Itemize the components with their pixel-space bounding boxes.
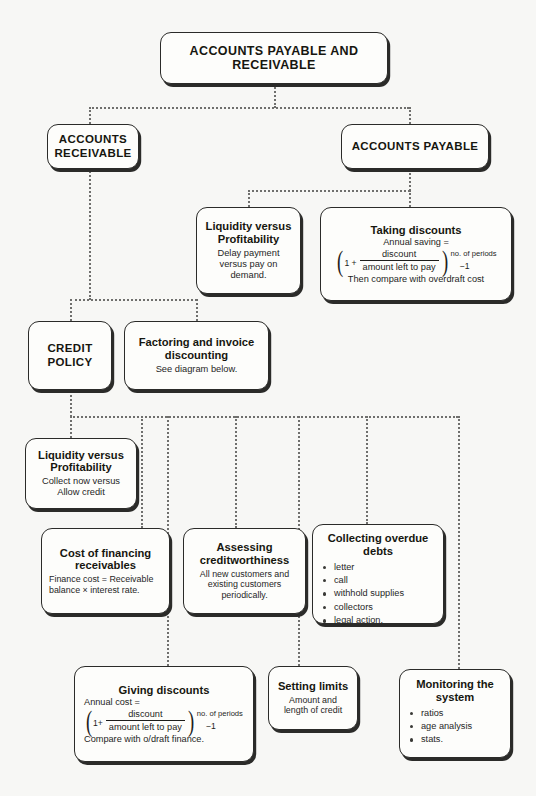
connector-main-bus [70, 416, 458, 418]
node-liquidity-receivable-body: Collect now versus Allow credit [33, 476, 129, 498]
node-taking-discounts[interactable]: Taking discounts Annual saving = ( 1 + d… [320, 207, 512, 301]
node-cost-of-financing-title: Cost of financing receivables [49, 547, 162, 573]
formula-exponent: no. of periods [451, 249, 497, 258]
formula-fraction: discount amount left to pay [360, 249, 439, 272]
connector-bus-level3 [70, 299, 197, 301]
node-assessing-creditworthiness-title: Assessing creditworthiness [191, 541, 298, 567]
node-root-title: ACCOUNTS PAYABLE AND RECEIVABLE [168, 44, 380, 73]
node-root[interactable]: ACCOUNTS PAYABLE AND RECEIVABLE [160, 32, 388, 84]
connector-drop-credit-policy [70, 299, 72, 321]
connector-drop-collecting [366, 416, 368, 524]
formula-open-paren: ( [86, 709, 92, 732]
node-setting-limits[interactable]: Setting limits Amount and length of cred… [268, 666, 358, 730]
node-factoring[interactable]: Factoring and invoice discounting See di… [124, 321, 269, 390]
connector-bus-payable [248, 190, 410, 192]
list-item: withhold supplies [320, 587, 404, 600]
formula-minus-one: −1 [460, 261, 470, 271]
node-taking-discounts-title: Taking discounts [370, 224, 461, 237]
node-monitoring-the-system[interactable]: Monitoring the system ratios age analysi… [399, 669, 511, 758]
formula-denominator: amount left to pay [106, 720, 185, 732]
node-assessing-creditworthiness[interactable]: Assessing creditworthiness All new custo… [183, 528, 306, 614]
connector-drop-receivable [89, 107, 91, 124]
node-liquidity-payable-title: Liquidity versus Profitability [204, 220, 293, 246]
node-factoring-title: Factoring and invoice discounting [132, 336, 261, 362]
connector-drop-taking-discounts [409, 190, 411, 207]
node-credit-policy-title: CREDIT POLICY [36, 342, 104, 368]
node-accounts-receivable[interactable]: ACCOUNTS RECEIVABLE [47, 124, 139, 169]
node-setting-limits-title: Setting limits [278, 680, 348, 693]
formula-fraction: discount amount left to pay [106, 709, 185, 732]
node-assessing-creditworthiness-body: All new customers and existing customers… [191, 569, 298, 601]
diagram-canvas: ACCOUNTS PAYABLE AND RECEIVABLE ACCOUNTS… [0, 0, 536, 796]
node-giving-discounts[interactable]: Giving discounts Annual cost = ( 1+ disc… [74, 666, 254, 762]
connector-drop-assessing [235, 416, 237, 528]
node-setting-limits-body: Amount and length of credit [276, 695, 350, 716]
list-item: letter [320, 561, 404, 574]
connector-drop-factoring [196, 299, 198, 321]
node-collecting-overdue-debts-bullets: letter call withhold supplies collectors… [320, 561, 404, 628]
list-item: ratios [407, 707, 472, 720]
formula-exponent-group: no. of periods −1 [197, 709, 243, 731]
list-item: collectors [320, 601, 404, 614]
node-cost-of-financing[interactable]: Cost of financing receivables Finance co… [41, 528, 170, 614]
node-giving-discounts-title: Giving discounts [84, 684, 244, 697]
node-monitoring-the-system-title: Monitoring the system [407, 678, 503, 704]
formula-exponent-group: no. of periods −1 [451, 249, 497, 271]
formula-numerator: discount [125, 709, 165, 720]
connector-drop-payable [409, 107, 411, 124]
node-giving-discounts-formula: ( 1+ discount amount left to pay ) no. o… [84, 709, 244, 732]
connector-root-stem [274, 84, 276, 108]
formula-lead: 1 + [344, 258, 356, 268]
connector-bus-level2 [89, 107, 409, 109]
node-taking-discounts-footer: Then compare with overdraft cost [348, 274, 484, 284]
node-liquidity-receivable[interactable]: Liquidity versus Profitability Collect n… [25, 438, 137, 509]
node-accounts-payable[interactable]: ACCOUNTS PAYABLE [341, 124, 489, 169]
node-factoring-body: See diagram below. [156, 364, 238, 375]
formula-open-paren: ( [337, 249, 343, 272]
list-item: stats. [407, 733, 472, 746]
list-item: legal action. [320, 614, 404, 627]
node-collecting-overdue-debts[interactable]: Collecting overdue debts letter call wit… [312, 524, 444, 624]
node-cost-of-financing-body: Finance cost = Receivable balance × inte… [49, 574, 162, 595]
connector-drop-liquidity-receivable [70, 416, 72, 438]
formula-lead: 1+ [93, 718, 103, 728]
list-item: age analysis [407, 720, 472, 733]
node-liquidity-payable-body: Delay payment versus pay on demand. [204, 248, 293, 281]
node-accounts-receivable-title: ACCOUNTS RECEIVABLE [54, 133, 131, 159]
formula-numerator: discount [379, 249, 419, 260]
connector-drop-cost-financing [141, 416, 143, 528]
connector-payable-stem [409, 168, 411, 191]
connector-drop-liquidity-payable [248, 190, 250, 207]
node-giving-discounts-line1: Annual cost = [84, 697, 140, 707]
node-giving-discounts-footer: Compare with o/draft finance. [84, 734, 204, 744]
node-monitoring-the-system-bullets: ratios age analysis stats. [407, 707, 472, 747]
formula-denominator: amount left to pay [360, 260, 439, 272]
list-item: call [320, 574, 404, 587]
formula-minus-one: −1 [206, 721, 216, 731]
formula-close-paren: ) [442, 249, 448, 272]
node-taking-discounts-formula: ( 1 + discount amount left to pay ) no. … [335, 249, 496, 272]
node-credit-policy[interactable]: CREDIT POLICY [28, 321, 112, 390]
formula-exponent: no. of periods [197, 709, 243, 718]
connector-drop-monitoring [458, 416, 460, 669]
formula-close-paren: ) [188, 709, 194, 732]
node-taking-discounts-line1: Annual saving = [383, 237, 449, 247]
node-collecting-overdue-debts-title: Collecting overdue debts [320, 532, 436, 558]
connector-receivable-stem [89, 168, 91, 300]
connector-credit-policy-stem [70, 390, 72, 417]
node-liquidity-receivable-title: Liquidity versus Profitability [33, 449, 129, 475]
node-accounts-payable-title: ACCOUNTS PAYABLE [352, 140, 479, 153]
node-liquidity-payable[interactable]: Liquidity versus Profitability Delay pay… [196, 207, 301, 294]
